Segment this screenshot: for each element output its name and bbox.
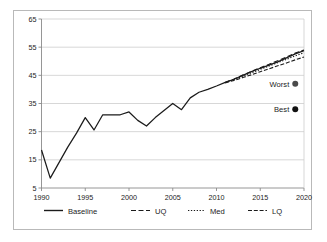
line-chart: 5152535455565 19901995200020052010201520… (0, 0, 327, 242)
point-annotations: WorstBest (270, 80, 299, 114)
legend-label-uq: UQ (155, 207, 166, 216)
y-tick-label: 65 (29, 15, 37, 24)
y-tick-label: 45 (29, 71, 37, 80)
x-tick-label: 2000 (121, 193, 137, 202)
chart-legend: BaselineUQMedLQ (44, 207, 282, 216)
gridlines (42, 19, 305, 160)
x-tick-label: 2010 (209, 193, 225, 202)
series-line-lq (225, 57, 304, 83)
y-tick-label: 25 (29, 127, 37, 136)
data-series-lines (42, 50, 305, 178)
y-tick-label: 5 (33, 184, 37, 193)
y-tick-label: 15 (29, 155, 37, 164)
annotation-marker-best (292, 106, 298, 112)
x-tick-label: 1990 (34, 193, 50, 202)
x-tick-label: 2020 (296, 193, 312, 202)
legend-label-baseline: Baseline (68, 207, 97, 216)
annotation-marker-worst (292, 81, 298, 87)
y-tick-label: 35 (29, 99, 37, 108)
y-tick-label: 55 (29, 43, 37, 52)
x-tick-label: 1995 (77, 193, 93, 202)
y-axis-tick-labels: 5152535455565 (29, 15, 37, 193)
x-axis-tick-labels: 1990199520002005201020152020 (34, 193, 313, 202)
legend-label-lq: LQ (272, 207, 282, 216)
annotation-label-best: Best (274, 105, 290, 114)
chart-figure: 5152535455565 19901995200020052010201520… (0, 0, 327, 242)
legend-label-med: Med (210, 207, 225, 216)
series-line-med (225, 53, 304, 83)
annotation-label-worst: Worst (270, 80, 291, 89)
x-tick-label: 2005 (165, 193, 181, 202)
x-tick-label: 2015 (252, 193, 268, 202)
